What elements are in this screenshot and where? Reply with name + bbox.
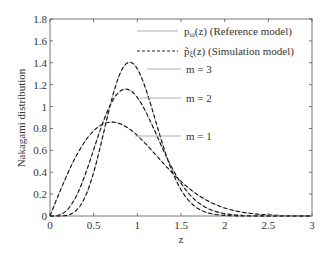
- x-tick-label: 0.5: [87, 219, 101, 231]
- y-tick-label: 1.6: [33, 35, 47, 47]
- legend-simulation: p̃ξ(z) (Simulation model): [184, 45, 294, 59]
- y-tick-label: 0.2: [33, 188, 47, 200]
- y-tick-label: 1.4: [33, 57, 47, 69]
- y-axis-label: Nakagami distribution: [15, 68, 27, 167]
- legend-reference: pω(z) (Reference model): [184, 25, 292, 39]
- label-m1: m = 1: [186, 130, 212, 142]
- nakagami-chart: 00.20.40.60.811.21.41.61.8 00.511.522.53…: [0, 0, 329, 256]
- y-tick-label: 1.8: [33, 13, 47, 25]
- y-tick-label: 1: [42, 101, 48, 113]
- label-m2: m = 2: [186, 92, 212, 104]
- x-tick-label: 1.5: [174, 219, 188, 231]
- y-tick-label: 0.8: [33, 122, 47, 134]
- x-tick-label: 2: [222, 219, 228, 231]
- y-tick-label: 0.4: [33, 166, 47, 178]
- x-tick-label: 0: [47, 219, 53, 231]
- x-tick-label: 2.5: [261, 219, 275, 231]
- y-tick-label: 1.2: [33, 79, 47, 91]
- x-axis-label: z: [179, 233, 184, 245]
- x-tick-label: 1: [135, 219, 141, 231]
- label-m3: m = 3: [186, 63, 212, 75]
- y-tick-label: 0.6: [33, 144, 47, 156]
- x-tick-label: 3: [309, 219, 315, 231]
